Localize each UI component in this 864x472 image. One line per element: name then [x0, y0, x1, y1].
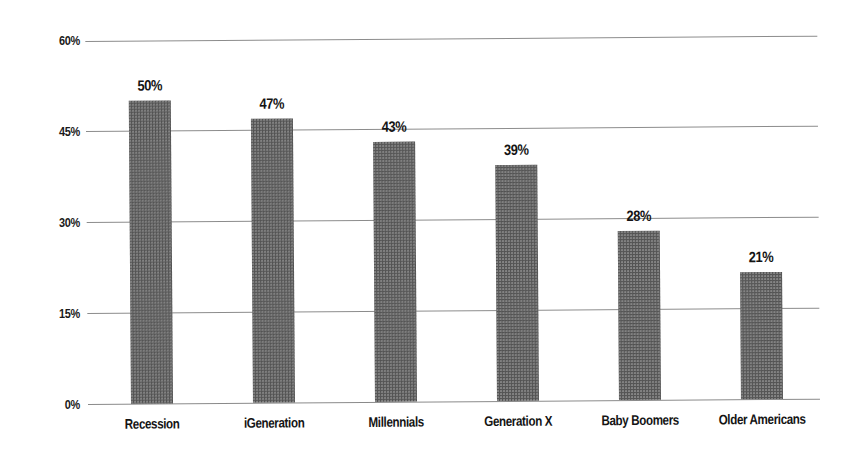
gridline-30 — [87, 217, 819, 223]
x-axis-category-label: Older Americans — [700, 411, 825, 428]
bar-value-label: 50% — [122, 76, 177, 93]
bar-value-label: 47% — [244, 94, 299, 111]
bar-recession — [129, 100, 173, 403]
axis-baseline-0 — [88, 399, 820, 405]
bar-value-label: 43% — [366, 118, 421, 135]
x-axis-category-label: Baby Boomers — [578, 411, 703, 428]
x-axis-category-label: iGeneration — [212, 414, 337, 431]
gridline-15 — [87, 308, 819, 314]
bar-value-label: 39% — [489, 141, 544, 158]
bar-igeneration — [251, 118, 295, 402]
x-axis-category-label: Generation X — [456, 412, 581, 429]
bar-older-americans — [740, 272, 783, 399]
bar-value-label: 21% — [733, 248, 788, 265]
bar-baby-boomers — [618, 231, 661, 400]
bar-chart-figure: 60% 45% 30% 15% 0% 50% 47% 43% 39% 28% 2… — [0, 0, 864, 472]
x-axis-category-label: Millennials — [334, 413, 459, 430]
bar-value-label: 28% — [611, 207, 666, 224]
x-axis-category-label: Recession — [90, 415, 215, 432]
plot-area: 50% 47% 43% 39% 28% 21% Recession iGener… — [0, 0, 864, 472]
gridline-60 — [85, 36, 817, 42]
gridline-45 — [86, 126, 818, 132]
bar-millennials — [373, 142, 417, 402]
bar-generation-x — [495, 165, 539, 401]
